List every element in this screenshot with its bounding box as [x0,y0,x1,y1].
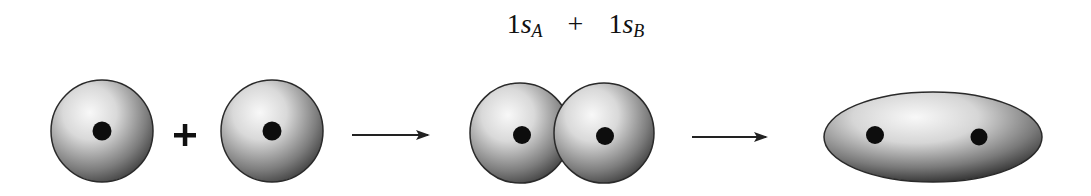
atom-a-orbital [51,80,153,182]
molecular-orbital-ellipse [824,92,1042,182]
plus-sign-icon [174,124,196,146]
orbital-diagram [0,0,1091,196]
nucleus-b-icon [263,122,282,141]
nucleus-a-icon [866,126,884,144]
overlapping-orbitals [470,83,654,183]
nucleus-b-icon [971,129,988,146]
nucleus-a-icon [93,122,112,141]
nucleus-b-icon [596,127,614,145]
atom-b-orbital [221,80,323,182]
nucleus-a-icon [513,126,531,144]
